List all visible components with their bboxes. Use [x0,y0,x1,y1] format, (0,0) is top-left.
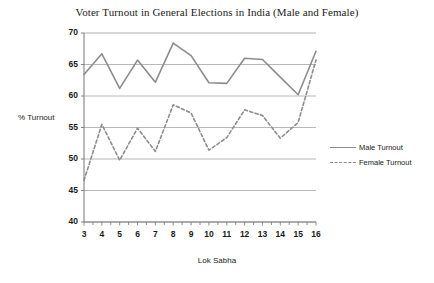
legend-label-female: Female Turnout [359,158,412,167]
series-line-male-turnout [84,43,316,95]
legend-item-female: Female Turnout [330,155,412,170]
chart-legend: Male Turnout Female Turnout [330,140,412,170]
female-line-swatch-icon [330,162,356,163]
chart-container: Voter Turnout in General Elections in In… [0,0,434,283]
male-line-swatch-icon [330,147,356,148]
legend-item-male: Male Turnout [330,140,412,155]
legend-label-male: Male Turnout [359,143,403,152]
